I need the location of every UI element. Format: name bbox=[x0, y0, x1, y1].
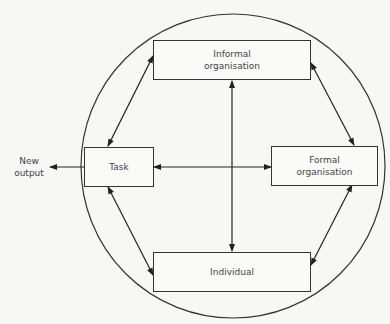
arrow-informal-formal bbox=[311, 63, 354, 145]
informal-label-line1: Informal bbox=[213, 49, 250, 59]
new-output-label: Newoutput bbox=[10, 155, 48, 179]
node-individual: Individual bbox=[153, 252, 311, 292]
node-informal-organisation: Informalorganisation bbox=[153, 40, 311, 80]
output-label-line1: New bbox=[19, 156, 39, 166]
output-label-line2: output bbox=[14, 168, 44, 178]
formal-label-line1: Formal bbox=[309, 155, 340, 165]
informal-label-line2: organisation bbox=[204, 61, 260, 71]
node-task: Task bbox=[84, 147, 154, 187]
individual-label: Individual bbox=[210, 266, 254, 278]
formal-label-line2: organisation bbox=[297, 167, 353, 177]
task-label: Task bbox=[109, 161, 128, 173]
arrow-task-informal bbox=[108, 56, 153, 146]
arrow-individual-formal bbox=[311, 185, 352, 265]
node-formal-organisation: Formalorganisation bbox=[271, 146, 378, 186]
